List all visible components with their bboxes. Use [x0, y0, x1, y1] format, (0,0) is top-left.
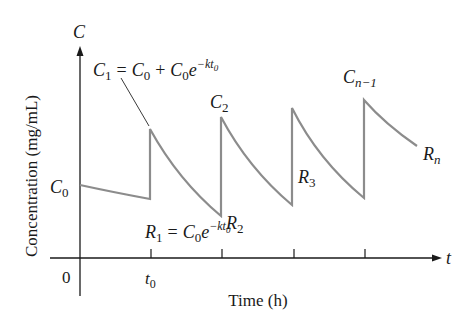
- label-c2: C2: [210, 92, 229, 115]
- chart-svg: Concentration (mg/mL) C t 0 t0 Time (h) …: [0, 0, 461, 330]
- label-r3: R3: [297, 167, 316, 190]
- y-axis-title: Concentration (mg/mL): [22, 95, 41, 257]
- y-axis-symbol: C: [73, 22, 86, 42]
- label-r1-equation: R1=C0e−kt0: [144, 219, 231, 245]
- tick-label-t0: t0: [145, 269, 156, 291]
- label-c0: C0: [50, 177, 69, 200]
- label-r2: R2: [225, 213, 244, 236]
- x-axis-symbol: t: [446, 248, 452, 268]
- x-axis-arrow-icon: [432, 255, 442, 262]
- c1-leader-line: [121, 78, 149, 126]
- y-axis-arrow-icon: [77, 46, 84, 56]
- x-axis-title: Time (h): [228, 291, 287, 310]
- chart-container: Concentration (mg/mL) C t 0 t0 Time (h) …: [0, 0, 461, 330]
- label-c1-equation: C1=C0+C0e−kt0: [93, 57, 219, 83]
- concentration-curve: [80, 100, 417, 216]
- origin-label: 0: [62, 268, 71, 287]
- x-ticks: [151, 249, 365, 258]
- label-cn-minus-1: Cn−1: [343, 67, 377, 90]
- axes: [50, 52, 436, 296]
- label-rn: Rn: [422, 144, 441, 167]
